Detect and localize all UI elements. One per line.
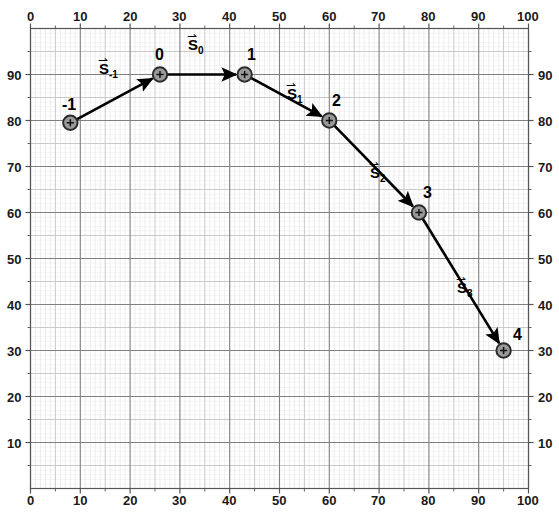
x-axis-tick-label-bottom: 60 bbox=[322, 494, 336, 507]
vector-label-s2: ⇀S2 bbox=[370, 165, 386, 184]
point-index-label: -1 bbox=[62, 97, 76, 113]
y-axis-tick-label-left: 40 bbox=[7, 299, 21, 312]
x-axis-tick-label-top: 70 bbox=[371, 10, 385, 23]
y-axis-tick-label-left: 10 bbox=[7, 437, 21, 450]
x-axis-tick-label-top: 30 bbox=[172, 10, 186, 23]
vector-label-s0: ⇀S0 bbox=[188, 37, 204, 56]
chart-figure: 0010102020303040405050606070708080909010… bbox=[0, 0, 559, 517]
x-axis-tick-label-top: 0 bbox=[27, 10, 34, 23]
y-axis-tick-label-left: 70 bbox=[7, 161, 21, 174]
y-axis-tick-label-right: 60 bbox=[538, 207, 552, 220]
x-axis-tick-label-bottom: 30 bbox=[172, 494, 186, 507]
y-axis-tick-label-right: 30 bbox=[538, 345, 552, 358]
point-index-label: 1 bbox=[247, 47, 256, 63]
x-axis-tick-label-bottom: 10 bbox=[73, 494, 87, 507]
x-axis-tick-label-top: 50 bbox=[272, 10, 286, 23]
x-axis-tick-label-bottom: 90 bbox=[471, 494, 485, 507]
x-axis-tick-label-top: 60 bbox=[322, 10, 336, 23]
vector-label-s-1: ⇀S-1 bbox=[99, 61, 118, 80]
y-axis-tick-label-right: 20 bbox=[538, 391, 552, 404]
y-axis-tick-label-right: 90 bbox=[538, 69, 552, 82]
x-axis-tick-label-top: 40 bbox=[222, 10, 236, 23]
y-axis-tick-label-left: 50 bbox=[7, 253, 21, 266]
x-axis-tick-label-top: 100 bbox=[517, 10, 539, 23]
y-axis-tick-label-left: 30 bbox=[7, 345, 21, 358]
x-axis-tick-label-top: 90 bbox=[471, 10, 485, 23]
x-axis-tick-label-bottom: 0 bbox=[27, 494, 34, 507]
x-axis-tick-label-bottom: 50 bbox=[272, 494, 286, 507]
x-axis-tick-label-top: 20 bbox=[123, 10, 137, 23]
point-index-label: 4 bbox=[513, 327, 522, 343]
x-axis-tick-label-top: 80 bbox=[421, 10, 435, 23]
y-axis-tick-label-left: 20 bbox=[7, 391, 21, 404]
x-axis-tick-label-bottom: 80 bbox=[421, 494, 435, 507]
y-axis-tick-label-right: 70 bbox=[538, 161, 552, 174]
point-index-label: 0 bbox=[155, 47, 164, 63]
vector-label-s3: ⇀S3 bbox=[457, 280, 473, 299]
y-axis-tick-label-right: 10 bbox=[538, 437, 552, 450]
point-index-label: 3 bbox=[423, 185, 432, 201]
plot-canvas bbox=[0, 0, 559, 517]
x-axis-tick-label-bottom: 70 bbox=[371, 494, 385, 507]
y-axis-tick-label-right: 40 bbox=[538, 299, 552, 312]
y-axis-tick-label-right: 80 bbox=[538, 115, 552, 128]
x-axis-tick-label-bottom: 20 bbox=[123, 494, 137, 507]
y-axis-tick-label-left: 60 bbox=[7, 207, 21, 220]
point-index-label: 2 bbox=[332, 93, 341, 109]
x-axis-tick-label-bottom: 100 bbox=[517, 494, 539, 507]
x-axis-tick-label-bottom: 40 bbox=[222, 494, 236, 507]
vector-label-s1: ⇀S1 bbox=[287, 86, 303, 105]
y-axis-tick-label-right: 50 bbox=[538, 253, 552, 266]
y-axis-tick-label-left: 80 bbox=[7, 115, 21, 128]
y-axis-tick-label-left: 90 bbox=[7, 69, 21, 82]
x-axis-tick-label-top: 10 bbox=[73, 10, 87, 23]
